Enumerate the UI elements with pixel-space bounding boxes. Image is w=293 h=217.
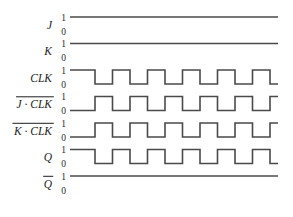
signal-label-j: J	[47, 19, 53, 31]
level-label-low: 0	[61, 186, 66, 196]
signal-label-k-bar-clk: K · CLK	[12, 123, 53, 136]
level-label-pair: 10	[61, 119, 66, 143]
signal-label-q: Q	[44, 151, 53, 163]
level-label-pair: 10	[61, 39, 66, 63]
signal-label-text: J	[47, 19, 53, 31]
signal-label-k: K	[43, 45, 53, 57]
level-label-low: 0	[61, 80, 66, 90]
level-label-pair: 10	[61, 92, 66, 116]
level-label-high: 1	[61, 66, 66, 76]
level-label-low: 0	[61, 53, 66, 63]
signal-label-text: K · CLK	[13, 125, 53, 137]
waveform-q	[70, 150, 278, 164]
level-label-high: 1	[61, 145, 66, 155]
signal-label-text: K	[43, 45, 53, 57]
level-label-high: 1	[61, 119, 66, 129]
signal-label-j-bar-clk: J · CLK	[16, 97, 54, 110]
level-label-pair: 10	[61, 13, 66, 37]
timing-diagram-svg: JKCLKJ · CLKK · CLKQQ 10101010101010	[0, 0, 293, 217]
waveform-j-bar-clk	[70, 97, 278, 111]
signal-label-text: CLK	[30, 72, 53, 84]
level-label-high: 1	[61, 13, 66, 23]
signal-label-text: J · CLK	[17, 98, 54, 110]
level-label-low: 0	[61, 106, 66, 116]
waveform-clk	[70, 70, 278, 84]
signal-label-text: Q	[44, 151, 53, 163]
waveform-k-bar-clk	[70, 123, 278, 137]
level-label-high: 1	[61, 172, 66, 182]
signal-label-q-bar: Q	[43, 176, 53, 189]
level-label-pair: 10	[61, 145, 66, 169]
level-label-low: 0	[61, 133, 66, 143]
level-label-pair: 10	[61, 172, 66, 196]
signal-labels-group: JKCLKJ · CLKK · CLKQQ	[12, 19, 53, 190]
timing-diagram: JKCLKJ · CLKK · CLKQQ 10101010101010	[0, 0, 293, 217]
level-label-high: 1	[61, 92, 66, 102]
level-labels-group: 10101010101010	[61, 13, 66, 196]
signal-label-clk: CLK	[30, 72, 53, 84]
level-label-high: 1	[61, 39, 66, 49]
waveforms-group	[70, 17, 278, 176]
level-label-pair: 10	[61, 66, 66, 90]
level-label-low: 0	[61, 27, 66, 37]
signal-label-text: Q	[44, 178, 53, 190]
level-label-low: 0	[61, 159, 66, 169]
